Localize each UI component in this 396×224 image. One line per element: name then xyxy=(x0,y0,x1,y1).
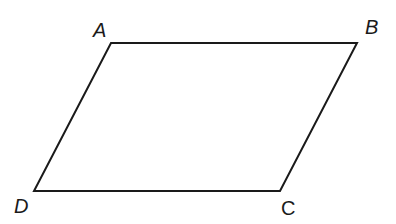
vertex-label-b: B xyxy=(365,16,378,38)
vertex-label-d: D xyxy=(14,195,28,217)
vertex-label-a: A xyxy=(92,19,106,41)
parallelogram-abcd xyxy=(34,43,357,191)
parallelogram-diagram: A B C D xyxy=(0,0,396,224)
vertex-label-c: C xyxy=(281,197,295,219)
